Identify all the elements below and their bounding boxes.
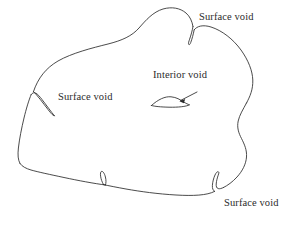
void-diagram-figure: Surface void Surface void Interior void …: [0, 0, 301, 225]
label-surface-void-top-right: Surface void: [199, 11, 254, 23]
labels-layer: Surface void Surface void Interior void …: [0, 0, 301, 225]
label-surface-void-bottom-right: Surface void: [224, 197, 279, 209]
label-interior-void: Interior void: [153, 69, 207, 81]
label-surface-void-left: Surface void: [58, 91, 113, 103]
